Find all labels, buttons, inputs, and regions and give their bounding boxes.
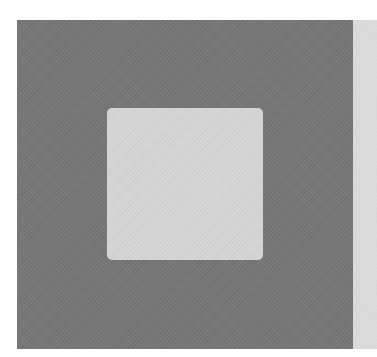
canvas [0,0,377,357]
right-light-strip [353,20,377,349]
inner-light-square [107,108,263,260]
